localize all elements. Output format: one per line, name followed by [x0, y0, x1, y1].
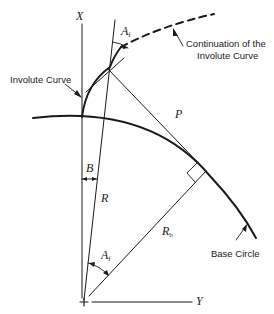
- x-axis-label: X: [76, 11, 83, 22]
- involute-curve: [82, 47, 121, 117]
- involute-curve-label: Involute Curve: [10, 74, 71, 85]
- r-label: R: [101, 193, 108, 204]
- b-angle-label: B: [86, 163, 93, 174]
- y-axis-label: Y: [196, 296, 203, 307]
- p-label: P: [175, 109, 182, 120]
- base-circle-label: Base Circle: [211, 248, 260, 259]
- base-radius-line: [89, 171, 206, 296]
- base-circle-arc: [33, 116, 256, 238]
- af-top-label: Af: [121, 26, 131, 41]
- rb-label: Rb: [162, 226, 173, 241]
- continuation-label-line1: Continuation of the: [186, 38, 266, 49]
- af-bottom-label: Af: [101, 250, 111, 265]
- right-angle-marker: [187, 162, 198, 182]
- continuation-label-line2: Involute Curve: [197, 50, 258, 61]
